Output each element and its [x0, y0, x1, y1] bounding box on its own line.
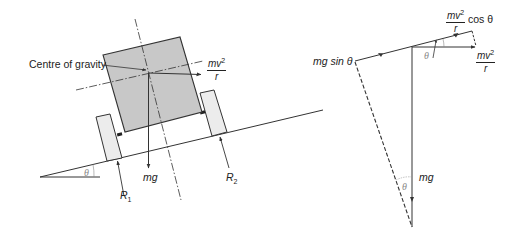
top-angle-pointer	[433, 41, 436, 58]
centrifugal-force-mv: mv	[208, 58, 221, 69]
cos-component-exponent: 2	[460, 9, 464, 16]
sin-perpendicular-dashed	[355, 62, 412, 227]
centrifugal-vector-label: mv2 r	[476, 49, 495, 74]
centrifugal-vector-denominator: r	[476, 63, 495, 74]
cos-component-denominator: r	[446, 23, 465, 34]
left-axle	[117, 132, 123, 136]
cos-component-numerator: mv2	[446, 9, 465, 23]
reaction-1-symbol: R	[120, 189, 128, 201]
reaction-1-label: R1	[120, 190, 132, 203]
top-angle-label: θ	[424, 51, 429, 61]
vehicle-on-slope-diagram	[40, 19, 323, 200]
slope-line	[40, 110, 323, 177]
centrifugal-force-denominator: r	[207, 71, 226, 82]
reaction-2-label: R2	[226, 172, 238, 185]
centrifugal-force-exponent: 2	[221, 57, 225, 64]
reaction-1-subscript: 1	[128, 196, 132, 203]
centrifugal-vector-numerator: mv2	[476, 49, 495, 63]
reaction-2-arrow	[220, 137, 229, 168]
vehicle-body	[103, 37, 202, 132]
centrifugal-vector-mv: mv	[477, 50, 490, 61]
force-triangle-diagram	[355, 31, 476, 227]
centrifugal-force-numerator: mv2	[207, 57, 226, 71]
slope-angle-label: θ	[84, 168, 89, 178]
centrifugal-force-label: mv2 r	[207, 57, 226, 82]
sin-component-label: mg sin θ	[313, 56, 353, 67]
centrifugal-vector-exponent: 2	[490, 49, 494, 56]
centre-of-gravity-label: Centre of gravity	[29, 59, 106, 70]
weight-vector-arrowhead	[410, 197, 414, 202]
cos-component-mv: mv	[447, 10, 460, 21]
diagram-canvas	[0, 0, 511, 241]
weight-vector-label: mg	[419, 172, 434, 183]
reaction-2-subscript: 2	[234, 178, 238, 185]
cos-perpendicular-dashed	[472, 31, 476, 46]
slope-angle-arc	[93, 165, 94, 178]
cos-component-fraction: mv2 r	[446, 9, 465, 34]
left-wheel	[96, 114, 122, 161]
top-angle-arc	[443, 39, 444, 47]
reaction-2-symbol: R	[226, 171, 234, 183]
bottom-angle-arc	[396, 177, 412, 180]
bottom-angle-label: θ	[402, 182, 407, 192]
cos-component-suffix: cos θ	[468, 14, 493, 25]
weight-label: mg	[143, 172, 158, 183]
